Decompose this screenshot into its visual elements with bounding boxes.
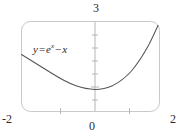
plot-frame	[22, 22, 160, 112]
x-axis-min-label: -2	[2, 113, 12, 125]
equation-term: x	[62, 43, 67, 55]
function-curve	[22, 26, 159, 90]
x-axis-max-label: 2	[170, 113, 176, 125]
figure-container: 3 -2 2 0 y=ex−x	[0, 0, 181, 137]
curve-equation-label: y=ex−x	[33, 43, 67, 55]
y-axis-max-label: 3	[93, 2, 99, 14]
x-axis-origin-label: 0	[89, 120, 95, 132]
plot-canvas	[0, 0, 181, 137]
equation-equals: =	[38, 43, 46, 55]
